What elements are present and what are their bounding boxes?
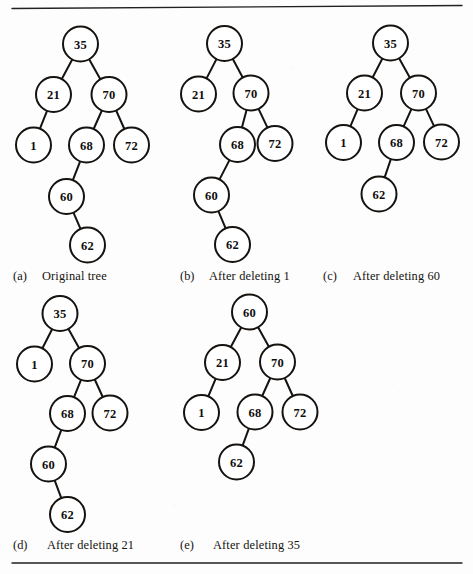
node-label: 68: [231, 138, 244, 152]
top-rule: [12, 6, 462, 9]
tree-node: 70: [234, 76, 269, 111]
node-label: 21: [47, 88, 60, 102]
node-label: 35: [54, 307, 67, 321]
tree-node: 62: [50, 497, 85, 532]
tree-edge: [258, 327, 269, 347]
node-label: 70: [412, 87, 425, 101]
tree-edge: [372, 58, 382, 78]
tree-edge: [74, 379, 81, 397]
tree-node: 35: [207, 26, 242, 61]
node-label: 35: [218, 37, 231, 51]
tree-node: 60: [49, 179, 84, 214]
tree-edge: [73, 212, 80, 229]
tree-edge: [54, 429, 61, 448]
binary-tree-figure: 3521701687260623521706872606235217016872…: [0, 0, 473, 574]
tree-panel-b: 35217068726062: [181, 26, 293, 262]
caption-text-e: After deleting 35: [213, 538, 300, 552]
caption-tag-a: (a): [13, 269, 27, 283]
caption-tag-d: (d): [13, 538, 27, 552]
node-label: 62: [226, 238, 239, 252]
tree-edge: [403, 109, 411, 127]
tree-node: 60: [194, 178, 229, 213]
node-label: 72: [435, 136, 448, 150]
node-label: 60: [243, 306, 256, 320]
tree-edge: [233, 58, 243, 78]
tree-node: 21: [205, 345, 240, 380]
node-label: 62: [81, 239, 94, 253]
tree-node: 60: [31, 447, 66, 482]
node-label: 21: [358, 87, 371, 101]
tree-node: 72: [258, 126, 293, 161]
tree-edge: [262, 378, 271, 397]
tree-edge: [399, 58, 410, 78]
node-label: 72: [104, 407, 117, 421]
node-label: 70: [81, 357, 94, 371]
tree-node: 70: [92, 77, 127, 112]
node-label: 35: [74, 38, 87, 52]
tree-node: 35: [63, 27, 98, 62]
tree-node: 21: [181, 77, 216, 112]
tree-node: 68: [220, 127, 255, 162]
node-label: 72: [294, 406, 307, 420]
node-label: 72: [125, 139, 138, 153]
tree-edge: [95, 379, 103, 398]
caption-text-c: After deleting 60: [353, 269, 440, 283]
tree-edge: [73, 161, 81, 181]
tree-edge: [206, 59, 216, 79]
node-label: 62: [61, 508, 74, 522]
caption-tag-e: (e): [180, 538, 194, 552]
tree-node: 1: [17, 347, 52, 382]
tree-edge: [219, 160, 229, 180]
caption-text-a: Original tree: [42, 269, 107, 283]
node-label: 60: [42, 458, 55, 472]
node-label: 21: [216, 356, 229, 370]
tree-node: 62: [70, 228, 105, 263]
tree-node: 70: [70, 346, 105, 381]
tree-edge: [40, 110, 47, 129]
tree-edge: [208, 378, 216, 397]
tree-node: 72: [424, 125, 459, 160]
tree-node: 70: [260, 345, 295, 380]
node-label: 60: [205, 189, 218, 203]
node-label: 1: [31, 358, 37, 372]
tree-node: 68: [379, 125, 414, 160]
tree-node: 1: [16, 128, 51, 163]
tree-edge: [231, 327, 242, 348]
tree-edge: [242, 109, 247, 128]
tree-edge: [42, 329, 52, 349]
tree-node: 68: [50, 396, 85, 431]
tree-panel-c: 3521701687262: [326, 26, 459, 212]
caption-tag-b: (b): [180, 269, 194, 283]
node-label: 21: [192, 88, 205, 102]
tree-edge: [89, 59, 101, 80]
tree-node: 60: [232, 295, 267, 330]
node-label: 1: [198, 406, 204, 420]
node-label: 70: [271, 356, 284, 370]
tree-node: 21: [347, 76, 382, 111]
tree-node: 72: [283, 395, 318, 430]
node-label: 68: [249, 406, 262, 420]
node-label: 68: [61, 407, 74, 421]
tree-panel-e: 6021701687262: [184, 295, 318, 480]
tree-edge: [116, 110, 125, 129]
tree-node: 62: [362, 177, 397, 212]
tree-node: 35: [43, 296, 78, 331]
tree-panel-a: 352170168726062: [16, 27, 149, 263]
tree-node: 72: [114, 128, 149, 163]
figure-canvas: 3521701687260623521706872606235217016872…: [0, 0, 473, 574]
node-label: 35: [384, 37, 397, 51]
tree-edge: [384, 159, 391, 178]
tree-edge: [93, 110, 102, 129]
node-label: 70: [103, 88, 116, 102]
node-label: 68: [80, 139, 93, 153]
node-label: 62: [230, 456, 243, 470]
tree-node: 35: [373, 26, 408, 61]
tree-edge: [242, 428, 249, 446]
tree-node: 72: [93, 396, 128, 431]
tree-node: 70: [401, 76, 436, 111]
node-label: 1: [30, 139, 36, 153]
node-label: 70: [245, 87, 258, 101]
node-label: 62: [373, 188, 386, 202]
tree-node: 68: [238, 395, 273, 430]
node-label: 1: [340, 136, 346, 150]
